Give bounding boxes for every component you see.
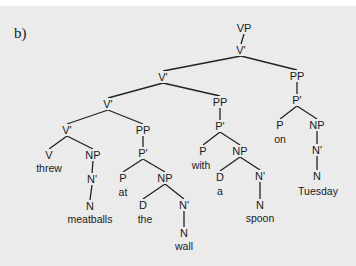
tree-edge [143,184,165,199]
tree-node-v4: V' [62,124,71,136]
tree-node-p3: P [276,119,283,131]
tree-node-d2: D [216,171,224,183]
tree-node-n3: N [313,170,321,182]
tree-node-pp2: PP [213,96,228,108]
tree-node-pp1: PP [136,124,151,136]
tree-node-p3b: P' [292,94,301,106]
tree-edge [49,136,67,149]
tree-node-d1: D [139,199,147,211]
tree-node-n1: N [180,227,188,239]
figure-label: b) [14,25,27,42]
tree-edge [241,56,297,70]
tree-node-p1b: P' [138,147,147,159]
tree-word-on: on [274,133,286,145]
tree-edge [241,34,244,44]
tree-edge [90,185,92,200]
syntax-tree: VPV'V'PPV'PPP'V'PPP'PNPVNPP'PNPN'N'PNPDN… [0,6,356,266]
diagram-canvas: VPV'V'PPV'PPP'V'PPP'PNPVNPP'PNPN'N'PNPDN… [0,6,356,266]
tree-node-vp: VP [237,22,252,34]
tree-edge [220,132,240,145]
tree-edge [163,56,241,71]
tree-node-n1b: N' [179,199,189,211]
tree-node-p2b: P' [215,120,224,132]
tree-node-v2: V' [158,71,167,83]
tree-word-threw: threw [36,162,62,174]
tree-node-n2: N [256,199,264,211]
tree-edge [163,83,220,96]
tree-edge [297,106,317,119]
tree-node-n2b: N' [255,170,265,182]
tree-node-n3b: N' [312,144,322,156]
tree-edge [92,161,93,173]
tree-edge [143,159,165,172]
tree-node-np0: NP [85,149,100,161]
tree-node-np2: NP [232,145,247,157]
tree-node-v3: V' [103,98,112,110]
tree-node-n0: N [86,200,94,212]
tree-word-meatballs: meatballs [68,213,113,225]
tree-nodes: VPV'V'PPV'PPP'V'PPP'PNPVNPP'PNPN'N'PNPDN… [41,22,325,239]
tree-word-spoon: spoon [246,212,275,224]
tree-word-at: at [119,186,128,198]
tree-node-p1: P [119,172,126,184]
tree-edge [108,83,163,98]
tree-node-v: V [45,149,53,161]
tree-edge [280,106,297,119]
tree-word-with: with [191,159,211,171]
tree-edge [220,157,240,171]
tree-word-tuesday: Tuesday [298,185,339,197]
tree-edge [203,132,220,145]
tree-edge [165,184,184,199]
tree-edge [108,110,143,124]
tree-node-n0b: N' [87,173,97,185]
tree-node-p2: P [199,145,206,157]
tree-node-np3: NP [309,119,324,131]
tree-edge [123,159,143,172]
tree-edge [67,136,93,149]
tree-edge [240,157,260,170]
tree-word-a: a [217,185,223,197]
tree-word-the: the [138,213,153,225]
tree-node-np1: NP [157,172,172,184]
tree-edge [67,110,108,124]
tree-node-pp3: PP [290,70,305,82]
tree-node-v1: V' [236,44,245,56]
tree-word-wall: wall [174,240,193,252]
